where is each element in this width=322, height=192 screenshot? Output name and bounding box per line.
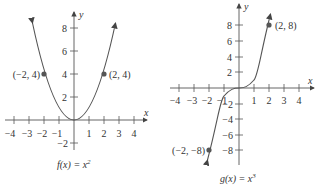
y-tick-label: 6 [227,36,232,47]
x-tick-label: −2 [202,95,213,106]
y-tick-label: 2 [62,92,67,103]
point-label: (2, 8) [275,20,297,32]
y-tick-label: 8 [62,23,67,34]
point-neg2-4 [41,71,46,76]
chart-g: −4 −3 −2 −1 1 2 3 4 8 6 4 2 −2 −4 −6 −8 … [170,1,314,185]
x-tick-label: 1 [87,128,92,139]
point-2-8 [266,22,271,27]
x-tick-label: 2 [102,128,107,139]
figure: −4 −3 −2 −1 1 2 3 4 8 6 4 2 −2 x y (−2, … [0,0,322,192]
point-label: (−2, 4) [13,69,40,81]
y-tick-label: −2 [222,99,233,110]
x-tick-label: 1 [252,95,257,106]
chart-f: −4 −3 −2 −1 1 2 3 4 8 6 4 2 −2 x y (−2, … [5,9,149,171]
x-tick-label: −2 [37,128,48,139]
x-axis-label: x [307,75,313,86]
x-tick-label: −4 [170,95,181,106]
y-tick-label: −8 [222,145,233,156]
x-tick-label: 4 [132,128,137,139]
point-2-4 [101,71,106,76]
point-label: (−2, −8) [172,145,205,157]
x-tick-label: −4 [5,128,16,139]
x-tick-label: 3 [117,128,122,139]
y-tick-label: −2 [57,138,68,149]
x-tick-label: 3 [282,95,287,106]
x-tick-label: −3 [22,128,33,139]
y-tick-label: 6 [62,46,67,57]
y-tick-label: −6 [222,130,233,141]
y-tick-label: 2 [227,67,232,78]
y-tick-label: 8 [227,20,232,31]
point-label: (2, 4) [109,69,131,81]
x-tick-label: 2 [267,95,272,106]
function-caption: f(x) = x2 [57,158,91,171]
y-tick-label: 4 [62,69,67,80]
y-tick-label: −4 [222,114,233,125]
x-tick-label: −3 [187,95,198,106]
x-axis-label: x [143,107,149,118]
y-axis-label: y [243,1,249,12]
function-caption: g(x) = x3 [220,172,256,185]
point-neg2-neg8 [206,147,211,152]
y-tick-label: 4 [227,52,232,63]
x-tick-label: 4 [297,95,302,106]
y-axis-label: y [78,9,84,20]
